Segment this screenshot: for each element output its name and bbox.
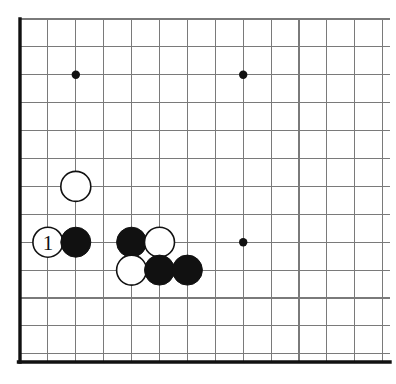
black-stone-icon bbox=[145, 255, 175, 285]
white-stone-icon bbox=[61, 171, 91, 201]
white-stone-icon bbox=[145, 227, 175, 257]
black-stone-icon bbox=[172, 255, 202, 285]
goban-svg: 1 bbox=[0, 0, 396, 384]
stone-white-5-10 bbox=[117, 255, 147, 285]
stone-white-6-9 bbox=[145, 227, 175, 257]
lower-right-star-icon bbox=[239, 238, 247, 246]
stone-white-3-7 bbox=[61, 171, 91, 201]
stone-black-7-10 bbox=[172, 255, 202, 285]
black-stone-icon bbox=[117, 227, 147, 257]
stone-black-6-10 bbox=[145, 255, 175, 285]
black-stone-icon bbox=[61, 227, 91, 257]
stone-white-2-9: 1 bbox=[33, 227, 63, 257]
stones-group: 1 bbox=[33, 171, 203, 285]
upper-left-star-icon bbox=[72, 71, 80, 79]
stone-black-5-9 bbox=[117, 227, 147, 257]
go-board-diagram: 1 bbox=[0, 0, 396, 384]
move-number-label: 1 bbox=[43, 231, 54, 255]
upper-right-star-icon bbox=[239, 71, 247, 79]
white-stone-icon bbox=[117, 255, 147, 285]
stone-black-3-9 bbox=[61, 227, 91, 257]
